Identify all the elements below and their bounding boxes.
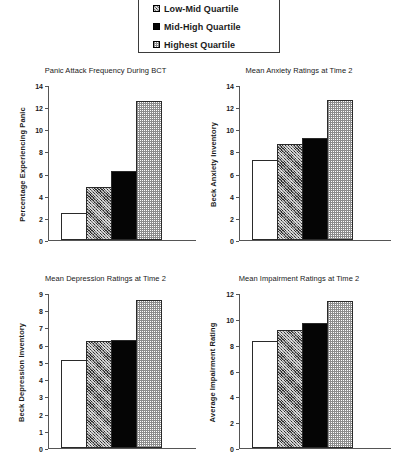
bar-2 bbox=[277, 330, 303, 448]
y-axis-tick-label: 0 bbox=[230, 446, 234, 453]
y-axis-tick-label: 3 bbox=[39, 394, 43, 401]
hatched-square-icon bbox=[153, 5, 160, 12]
bar-3 bbox=[111, 171, 137, 240]
y-axis-tick bbox=[45, 415, 48, 416]
y-axis-tick-label: 8 bbox=[230, 342, 234, 349]
x-axis-line bbox=[239, 448, 391, 449]
bar-3 bbox=[111, 340, 137, 449]
bar-3 bbox=[302, 138, 328, 240]
y-axis-tick bbox=[236, 108, 239, 109]
y-axis-tick-label: 2 bbox=[230, 215, 234, 222]
x-axis-line bbox=[48, 240, 196, 241]
bar-4 bbox=[327, 100, 353, 240]
y-axis-line bbox=[239, 86, 240, 241]
y-axis-tick-label: 5 bbox=[39, 359, 43, 366]
y-axis-tick-label: 6 bbox=[39, 342, 43, 349]
bar-2 bbox=[86, 341, 112, 448]
chart-panel-mean-impairment-ratings: Mean Impairment Ratings at Time 2Average… bbox=[205, 274, 393, 470]
chart-panel-mean-anxiety-ratings: Mean Anxiety Ratings at Time 2Beck Anxie… bbox=[205, 66, 393, 262]
y-axis-tick-label: 12 bbox=[226, 105, 234, 112]
legend-item: Low-Mid Quartile bbox=[153, 0, 279, 17]
y-axis-tick-label: 6 bbox=[39, 171, 43, 178]
y-axis-tick bbox=[45, 130, 48, 131]
plot-area: 02468101214 bbox=[48, 86, 195, 241]
y-axis-tick bbox=[45, 197, 48, 198]
y-axis-tick bbox=[45, 241, 48, 242]
y-axis-tick-label: 8 bbox=[230, 149, 234, 156]
y-axis-tick-label: 1 bbox=[39, 428, 43, 435]
chart-title: Mean Impairment Ratings at Time 2 bbox=[205, 274, 393, 283]
chart-panel-mean-depression-ratings: Mean Depression Ratings at Time 2Beck De… bbox=[14, 274, 197, 470]
y-axis-tick-label: 4 bbox=[39, 377, 43, 384]
y-axis-tick-label: 8 bbox=[39, 149, 43, 156]
y-axis-title-label: Beck Anxiety Inventory bbox=[209, 122, 218, 207]
bar-group bbox=[61, 101, 162, 241]
y-axis-tick-label: 6 bbox=[230, 368, 234, 375]
bar-2 bbox=[86, 187, 112, 240]
y-axis-title: Beck Depression Inventory bbox=[16, 296, 28, 448]
legend-item-label: Low-Mid Quartile bbox=[164, 4, 239, 14]
y-axis-tick bbox=[45, 363, 48, 364]
y-axis-tick-label: 2 bbox=[39, 411, 43, 418]
y-axis-line bbox=[239, 294, 240, 449]
y-axis-tick bbox=[236, 397, 239, 398]
bar-2 bbox=[277, 144, 303, 240]
y-axis-tick bbox=[45, 294, 48, 295]
checkered-square-icon bbox=[153, 41, 160, 48]
y-axis-tick-label: 14 bbox=[35, 83, 43, 90]
legend-item-label: Mid-High Quartile bbox=[164, 22, 241, 32]
y-axis-tick bbox=[45, 380, 48, 381]
y-axis-tick-label: 6 bbox=[230, 171, 234, 178]
y-axis-tick bbox=[236, 320, 239, 321]
y-axis-tick-label: 12 bbox=[226, 291, 234, 298]
plot-area: 0123456789 bbox=[48, 294, 195, 449]
y-axis-tick bbox=[45, 432, 48, 433]
legend-item: Highest Quartile bbox=[153, 36, 279, 53]
y-axis-tick-label: 10 bbox=[35, 127, 43, 134]
bar-group bbox=[61, 300, 162, 448]
x-axis-line bbox=[48, 448, 196, 449]
bar-1 bbox=[61, 360, 87, 448]
y-axis-tick-label: 2 bbox=[39, 215, 43, 222]
black-square-icon bbox=[153, 23, 160, 30]
y-axis-title-label: Average Impairment Rating bbox=[209, 322, 218, 422]
y-axis-tick bbox=[236, 152, 239, 153]
y-axis-tick bbox=[45, 108, 48, 109]
y-axis-tick-label: 7 bbox=[39, 325, 43, 332]
y-axis-tick-label: 0 bbox=[230, 238, 234, 245]
y-axis-line bbox=[48, 86, 49, 241]
y-axis-tick bbox=[45, 152, 48, 153]
y-axis-tick-label: 0 bbox=[39, 446, 43, 453]
legend-item-label: Highest Quartile bbox=[164, 40, 235, 50]
y-axis-tick bbox=[236, 423, 239, 424]
bar-4 bbox=[136, 300, 162, 448]
y-axis-tick bbox=[236, 130, 239, 131]
bar-1 bbox=[252, 341, 278, 448]
y-axis-tick-label: 0 bbox=[39, 238, 43, 245]
y-axis-tick bbox=[45, 328, 48, 329]
y-axis-tick-label: 10 bbox=[226, 127, 234, 134]
y-axis-tick bbox=[236, 294, 239, 295]
x-axis-line bbox=[239, 240, 391, 241]
y-axis-title-label: Beck Depression Inventory bbox=[18, 322, 27, 421]
quartile-legend: Low-Mid Quartile Mid-High Quartile Highe… bbox=[138, 0, 280, 53]
plot-area: 02468101214 bbox=[239, 86, 391, 241]
y-axis-tick-label: 9 bbox=[39, 291, 43, 298]
y-axis-title: Beck Anxiety Inventory bbox=[207, 88, 219, 240]
y-axis-title: Percentage Experiencing Panic bbox=[16, 88, 28, 240]
y-axis-tick bbox=[45, 86, 48, 87]
bar-4 bbox=[327, 301, 353, 448]
y-axis-title-label: Percentage Experiencing Panic bbox=[18, 107, 27, 222]
y-axis-tick-label: 4 bbox=[230, 394, 234, 401]
y-axis-tick-label: 8 bbox=[39, 308, 43, 315]
plot-area: 024681012 bbox=[239, 294, 391, 449]
y-axis-tick-label: 12 bbox=[35, 105, 43, 112]
y-axis-tick-label: 4 bbox=[39, 193, 43, 200]
chart-panel-panic-attack-frequency: Panic Attack Frequency During BCTPercent… bbox=[14, 66, 197, 262]
chart-title: Mean Anxiety Ratings at Time 2 bbox=[205, 66, 393, 75]
y-axis-tick bbox=[236, 175, 239, 176]
chart-title: Panic Attack Frequency During BCT bbox=[14, 66, 197, 75]
y-axis-tick bbox=[45, 219, 48, 220]
y-axis-tick bbox=[236, 86, 239, 87]
y-axis-title: Average Impairment Rating bbox=[207, 296, 219, 448]
